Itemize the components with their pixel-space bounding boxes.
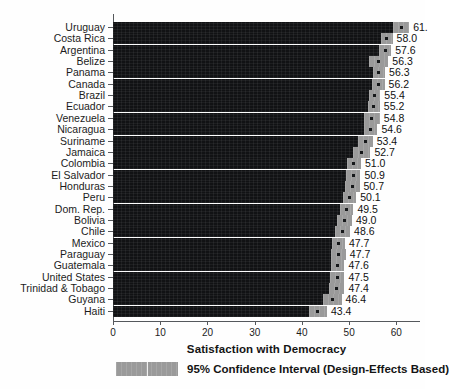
x-axis-tick xyxy=(113,321,114,325)
x-axis-title: Satisfaction with Democracy xyxy=(113,343,420,355)
y-axis-label-paraguay: Paraguay xyxy=(60,248,105,260)
bar-value-label: 57.6 xyxy=(395,44,415,56)
bar-value-label: 55.2 xyxy=(384,100,404,112)
bar xyxy=(113,238,332,249)
x-axis-tick xyxy=(302,321,303,325)
y-axis-label-panama: Panama xyxy=(66,66,105,78)
x-axis-tick xyxy=(160,321,161,325)
chart-row: Suriname53.4 xyxy=(113,136,420,147)
chart-row: Canada56.2 xyxy=(113,79,420,90)
bar-value-label: 61. xyxy=(413,21,428,33)
y-axis-label-nicaragua: Nicaragua xyxy=(57,123,105,135)
bar-value-label: 52.7 xyxy=(374,146,394,158)
y-axis-label-suriname: Suriname xyxy=(60,135,105,147)
chart-row: Haiti43.4 xyxy=(113,306,420,317)
y-axis-label-guyana: Guyana xyxy=(68,293,105,305)
point-estimate-marker xyxy=(369,128,372,131)
point-estimate-marker xyxy=(336,276,339,279)
chart-legend: 95% Confidence Interval (Design-Effects … xyxy=(116,362,449,376)
bar xyxy=(113,90,369,101)
point-estimate-marker xyxy=(335,287,338,290)
point-estimate-marker xyxy=(377,83,380,86)
bar-value-label: 56.3 xyxy=(389,66,409,78)
bar-value-label: 46.4 xyxy=(346,293,366,305)
y-axis-label-honduras: Honduras xyxy=(59,180,105,192)
point-estimate-marker xyxy=(377,71,380,74)
point-estimate-marker xyxy=(336,264,339,267)
point-estimate-marker xyxy=(385,37,388,40)
x-axis-tick xyxy=(349,321,350,325)
chart-row: Nicaragua54.6 xyxy=(113,124,420,135)
legend-label-confidence-interval: 95% Confidence Interval (Design-Effects … xyxy=(187,363,449,375)
bar-value-label: 56.2 xyxy=(389,78,409,90)
bar xyxy=(113,260,331,271)
chart-row: Mexico47.7 xyxy=(113,238,420,249)
chart-row: Brazil55.4 xyxy=(113,90,420,101)
bar xyxy=(113,124,364,135)
x-axis-tick-label: 40 xyxy=(296,327,307,339)
point-estimate-marker xyxy=(377,60,380,63)
bar xyxy=(113,170,346,181)
bar-value-label: 47.5 xyxy=(348,271,368,283)
point-estimate-marker xyxy=(343,219,346,222)
bar xyxy=(113,101,368,112)
x-axis-tick-label: 10 xyxy=(155,327,166,339)
chart-row: Guatemala47.6 xyxy=(113,260,420,271)
point-estimate-marker xyxy=(337,253,340,256)
bar-value-label: 47.7 xyxy=(349,237,369,249)
point-estimate-marker xyxy=(400,26,403,29)
bar-value-label: 47.4 xyxy=(348,282,368,294)
bar xyxy=(113,33,381,44)
bar-value-label: 48.6 xyxy=(354,225,374,237)
bar xyxy=(113,226,335,237)
chart-row: Costa Rica58.0 xyxy=(113,33,420,44)
bar xyxy=(113,113,364,124)
bar-value-label: 50.9 xyxy=(364,169,384,181)
point-estimate-marker xyxy=(384,49,387,52)
bar xyxy=(113,147,353,158)
bar xyxy=(113,192,343,203)
bar xyxy=(113,294,323,305)
y-axis-label-bolivia: Bolivia xyxy=(74,214,105,226)
y-axis-label-costa-rica: Costa Rica xyxy=(54,32,105,44)
bar xyxy=(113,272,330,283)
chart-row: Dom. Rep.49.5 xyxy=(113,204,420,215)
bar xyxy=(113,306,309,317)
legend-swatch-confidence-interval xyxy=(116,362,178,376)
point-estimate-marker xyxy=(364,140,367,143)
chart-row: Belize56.3 xyxy=(113,56,420,67)
bar xyxy=(113,56,369,67)
bar-value-label: 50.7 xyxy=(364,180,384,192)
bar xyxy=(113,79,372,90)
point-estimate-marker xyxy=(341,230,344,233)
y-axis-label-canada: Canada xyxy=(68,78,105,90)
bar-value-label: 49.5 xyxy=(357,203,377,215)
y-axis-label-haiti: Haiti xyxy=(84,305,105,317)
bar-value-label: 54.6 xyxy=(381,123,401,135)
y-axis-label-guatemala: Guatemala xyxy=(54,259,105,271)
chart-row: Paraguay47.7 xyxy=(113,249,420,260)
x-axis-tick-label: 20 xyxy=(202,327,213,339)
x-axis-tick-label: 0 xyxy=(110,327,116,339)
chart-row: Panama56.3 xyxy=(113,67,420,78)
y-axis-label-ecuador: Ecuador xyxy=(66,100,105,112)
point-estimate-marker xyxy=(352,162,355,165)
chart-row: Argentina57.6 xyxy=(113,45,420,56)
chart-row: Colombia51.0 xyxy=(113,158,420,169)
bar-value-label: 54.8 xyxy=(384,112,404,124)
bar xyxy=(113,249,331,260)
chart-row: Ecuador55.2 xyxy=(113,101,420,112)
bar-value-label: 56.3 xyxy=(392,55,412,67)
bar-value-label: 50.1 xyxy=(360,191,380,203)
chart-row: Chile48.6 xyxy=(113,226,420,237)
y-axis-label-brazil: Brazil xyxy=(79,89,105,101)
x-axis-tick-label: 60 xyxy=(391,327,402,339)
bar-value-label: 51.0 xyxy=(365,157,385,169)
chart-row: Jamaica52.7 xyxy=(113,147,420,158)
bar-value-label: 49.0 xyxy=(356,214,376,226)
bar xyxy=(113,215,337,226)
y-axis-label-trinidad-tobago: Trinidad & Tobago xyxy=(20,282,105,294)
point-estimate-marker xyxy=(331,298,334,301)
chart-row: United States47.5 xyxy=(113,272,420,283)
y-axis-label-belize: Belize xyxy=(76,55,105,67)
